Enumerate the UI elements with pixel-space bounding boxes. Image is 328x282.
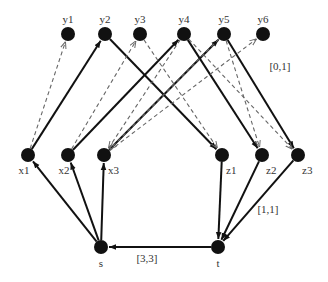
node-circle — [291, 148, 305, 162]
node-circle — [21, 148, 35, 162]
node-label: y5 — [219, 13, 231, 25]
node-y1: y1 — [61, 13, 75, 41]
node-s: s — [94, 240, 108, 269]
node-circle — [94, 240, 108, 254]
node-circle — [61, 27, 75, 41]
node-circle — [256, 27, 270, 41]
node-circle — [133, 27, 147, 41]
edge-y3-z1 — [144, 40, 218, 149]
edge-x3-y6 — [110, 39, 257, 151]
node-label: z3 — [302, 164, 313, 176]
node-y4: y4 — [177, 13, 191, 41]
node-label: z1 — [226, 164, 236, 176]
node-label: y6 — [258, 13, 270, 25]
node-circle — [98, 27, 112, 41]
capacity-label: [0,1] — [269, 60, 290, 72]
edge-y4-x3 — [108, 40, 180, 148]
nodes: y1y2y3y4y5y6x1x2x3z1z2z3st — [19, 13, 313, 269]
edges — [30, 39, 294, 247]
edge-s-x3 — [101, 163, 104, 240]
node-t: t — [211, 240, 225, 269]
node-y3: y3 — [133, 13, 147, 41]
node-label: t — [216, 257, 219, 269]
diagram-svg: y1y2y3y4y5y6x1x2x3z1z2z3st [0,1][1,1][3,… — [0, 0, 328, 282]
node-label: x2 — [59, 164, 70, 176]
node-x2: x2 — [59, 148, 76, 176]
edge-y5-z2 — [226, 41, 260, 148]
edge-x1-y1 — [30, 42, 65, 149]
edge-y5-z3 — [228, 40, 294, 148]
node-circle — [255, 148, 269, 162]
node-y2: y2 — [98, 13, 112, 41]
edge-y4-z3 — [189, 39, 293, 149]
capacity-label: [1,1] — [257, 203, 278, 215]
node-label: y2 — [100, 13, 111, 25]
capacity-label: [3,3] — [136, 252, 157, 264]
edge-s-x2 — [71, 163, 99, 241]
node-z3: z3 — [291, 148, 313, 176]
node-label: y4 — [179, 13, 191, 25]
node-circle — [211, 240, 225, 254]
node-label: x3 — [108, 164, 120, 176]
node-circle — [97, 148, 111, 162]
node-circle — [217, 27, 231, 41]
node-x3: x3 — [97, 148, 120, 176]
node-circle — [215, 148, 229, 162]
node-y5: y5 — [217, 13, 231, 41]
node-label: s — [99, 257, 103, 269]
node-z1: z1 — [215, 148, 236, 176]
node-circle — [61, 148, 75, 162]
node-label: x1 — [19, 164, 30, 176]
node-y6: y6 — [256, 13, 270, 41]
node-label: z2 — [266, 164, 276, 176]
edge-z1-t — [218, 162, 221, 239]
node-label: y3 — [135, 13, 147, 25]
edge-y4-z2 — [188, 40, 258, 148]
flow-network-diagram: y1y2y3y4y5y6x1x2x3z1z2z3st [0,1][1,1][3,… — [0, 0, 328, 282]
node-label: y1 — [63, 13, 74, 25]
node-circle — [177, 27, 191, 41]
